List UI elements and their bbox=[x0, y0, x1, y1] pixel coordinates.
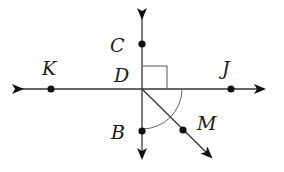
label-m: M bbox=[196, 112, 217, 134]
label-c: C bbox=[110, 34, 125, 56]
label-j: J bbox=[218, 57, 231, 79]
label-d: D bbox=[113, 64, 129, 86]
label-k: K bbox=[41, 57, 58, 79]
right-angle-mark bbox=[143, 66, 167, 89]
point-c bbox=[138, 40, 145, 47]
geometry-diagram: C K D J B M bbox=[0, 0, 284, 172]
point-j bbox=[227, 85, 234, 92]
point-k bbox=[47, 85, 54, 92]
point-b bbox=[138, 127, 145, 134]
point-m bbox=[179, 126, 186, 133]
label-b: B bbox=[110, 121, 125, 143]
